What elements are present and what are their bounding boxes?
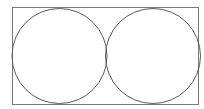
- left-circle: [12, 9, 107, 104]
- right-circle: [106, 9, 201, 104]
- diagram-canvas: [0, 0, 204, 109]
